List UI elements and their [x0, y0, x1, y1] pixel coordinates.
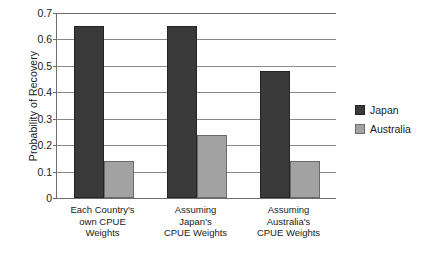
- legend-swatch-australia-icon: [355, 124, 365, 134]
- x-axis-tick-label-3: Assuming Australia's CPUE Weights: [242, 204, 335, 239]
- bar-australia-group-3: [290, 161, 320, 198]
- y-axis-tick-mark: [53, 145, 57, 146]
- bar-japan-group-2: [167, 26, 197, 198]
- gridline: [57, 13, 336, 14]
- legend-label: Japan: [370, 104, 399, 116]
- y-axis-tick-mark: [53, 66, 57, 67]
- y-axis-tick-label: 0.1: [8, 166, 52, 178]
- legend-swatch-japan-icon: [355, 105, 365, 115]
- x-axis-tick-label-2: Assuming Japan's CPUE Weights: [149, 204, 242, 239]
- y-axis-tick-label: 0.3: [8, 113, 52, 125]
- bar-japan-group-3: [260, 71, 290, 198]
- bar-chart-figure: Probability of Recovery 00.10.20.30.40.5…: [0, 0, 430, 260]
- legend-item-australia: Australia: [355, 123, 411, 135]
- plot-area: 00.10.20.30.40.50.60.7: [56, 13, 336, 199]
- y-axis-tick-mark: [53, 39, 57, 40]
- bar-australia-group-1: [104, 161, 134, 198]
- legend-item-japan: Japan: [355, 104, 411, 116]
- bar-japan-group-1: [74, 26, 104, 198]
- bar-australia-group-2: [197, 135, 227, 198]
- y-axis-tick-label: 0.7: [8, 7, 52, 19]
- y-axis-tick-label: 0.6: [8, 33, 52, 45]
- y-axis-tick-mark: [53, 198, 57, 199]
- y-axis-tick-label: 0.2: [8, 139, 52, 151]
- y-axis-tick-label: 0: [8, 192, 52, 204]
- chart-legend: JapanAustralia: [355, 104, 411, 142]
- y-axis-tick-label: 0.4: [8, 86, 52, 98]
- x-axis-tick-label-1: Each Country's own CPUE Weights: [56, 204, 149, 239]
- y-axis-tick-mark: [53, 92, 57, 93]
- y-axis-tick-mark: [53, 119, 57, 120]
- y-axis-tick-label: 0.5: [8, 60, 52, 72]
- y-axis-tick-mark: [53, 13, 57, 14]
- y-axis-tick-mark: [53, 172, 57, 173]
- legend-label: Australia: [370, 123, 411, 135]
